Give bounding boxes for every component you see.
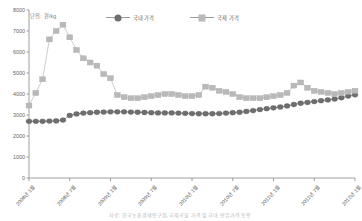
y-tick-label: 4000	[1, 91, 25, 97]
y-tick-label: 5000	[1, 70, 25, 76]
y-tick-label: 2000	[1, 133, 25, 139]
y-tick-label: 7000	[1, 28, 25, 34]
y-tick-label: 0	[1, 175, 25, 181]
y-tick-label: 6000	[1, 49, 25, 55]
y-tick-label: 8000	[1, 7, 25, 13]
y-tick-label: 3000	[1, 112, 25, 118]
y-tick-label: 1000	[1, 154, 25, 160]
source-caption: 자료: 한국농촌경제연구원, 국제곡물 가격 및 국내 반입가격 동향	[0, 211, 360, 218]
